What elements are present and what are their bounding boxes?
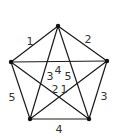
k5-graph-diagram: 1 2 3 4 5 4 3 5 2 1 [0, 0, 121, 140]
label-outer-left: 5 [9, 91, 16, 104]
label-inner-bottom-right: 1 [61, 83, 68, 96]
label-inner-bottom-left: 2 [52, 83, 59, 96]
label-outer-right: 3 [101, 90, 108, 103]
label-outer-top-right: 2 [85, 33, 92, 46]
vertex-top [56, 24, 60, 28]
edge-labels: 1 2 3 4 5 4 3 5 2 1 [9, 33, 108, 136]
graph-svg: 1 2 3 4 5 4 3 5 2 1 [0, 0, 121, 140]
edge-top-right [58, 26, 107, 61]
vertex-bottom-left [28, 117, 32, 121]
edge-left-right [11, 61, 107, 62]
vertex-left [9, 60, 13, 64]
label-inner-right: 5 [65, 70, 72, 83]
vertex-right [105, 59, 109, 63]
label-inner-top: 4 [55, 64, 62, 77]
edge-top-left [11, 26, 58, 62]
label-inner-left: 3 [47, 70, 54, 83]
label-outer-bottom: 4 [56, 123, 63, 136]
label-outer-top-left: 1 [27, 35, 34, 48]
vertex-bottom-right [87, 117, 91, 121]
